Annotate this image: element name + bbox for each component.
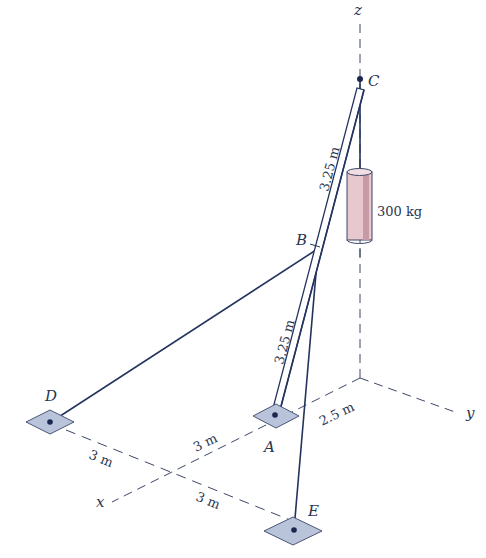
dim-x-to-e: 3 m — [194, 489, 223, 512]
dim-origin-to-a: 2.5 m — [317, 399, 357, 429]
x-axis — [112, 378, 360, 502]
point-label-b: B — [295, 231, 307, 249]
point-e — [291, 527, 297, 533]
point-label-c: C — [368, 72, 380, 90]
point-a — [272, 412, 278, 418]
statics-diagram: z y x C B A D E 300 kg 3.25 m 3.25 m 2.5… — [0, 0, 486, 558]
strut-ac-edge — [279, 90, 364, 414]
point-d — [47, 419, 53, 425]
axis-label-z: z — [353, 1, 362, 19]
point-label-e: E — [307, 502, 319, 520]
y-axis — [360, 378, 455, 412]
axis-label-x: x — [96, 493, 105, 511]
dim-a-to-x: 3 m — [191, 430, 220, 454]
point-label-a: A — [262, 438, 275, 456]
mass-cylinder — [347, 169, 372, 244]
axis-label-y: y — [465, 404, 475, 422]
dim-d-to-x: 3 m — [87, 447, 116, 470]
point-c — [357, 76, 363, 82]
point-label-d: D — [44, 387, 57, 405]
mass-label: 300 kg — [377, 204, 422, 219]
